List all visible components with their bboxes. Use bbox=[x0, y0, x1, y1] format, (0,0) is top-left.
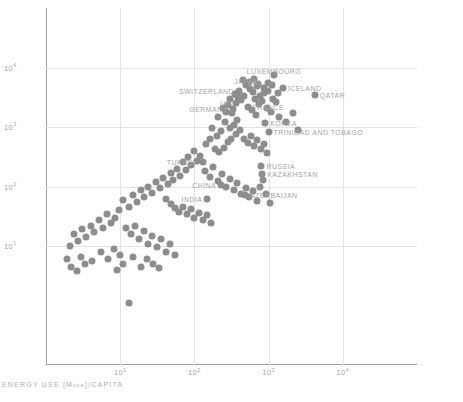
data-point bbox=[79, 226, 86, 233]
data-point bbox=[223, 183, 230, 190]
data-point bbox=[89, 258, 96, 265]
data-point bbox=[137, 263, 144, 270]
data-point bbox=[115, 207, 122, 214]
data-point bbox=[155, 265, 162, 272]
data-point bbox=[113, 266, 120, 273]
data-point bbox=[87, 222, 94, 229]
data-point bbox=[107, 220, 114, 227]
data-point bbox=[125, 203, 132, 210]
data-point bbox=[149, 232, 156, 239]
data-point bbox=[234, 179, 241, 186]
data-point bbox=[289, 110, 296, 117]
data-point bbox=[242, 184, 249, 191]
country-label: QATAR bbox=[320, 92, 345, 99]
data-point bbox=[104, 256, 111, 263]
data-point bbox=[311, 92, 318, 99]
data-point bbox=[171, 252, 178, 259]
data-point bbox=[91, 229, 98, 236]
gridline-horizontal bbox=[46, 246, 417, 247]
x-axis-line bbox=[46, 364, 417, 365]
x-tick-label: 101 bbox=[114, 368, 127, 377]
data-point bbox=[210, 163, 217, 170]
data-point bbox=[258, 163, 265, 170]
data-point bbox=[206, 173, 213, 180]
gridline-horizontal bbox=[46, 68, 417, 69]
y-tick-label: 101 bbox=[4, 242, 17, 251]
country-label: KAZAKHSTAN bbox=[267, 171, 318, 178]
data-point bbox=[103, 210, 110, 217]
data-point bbox=[145, 183, 152, 190]
data-point bbox=[190, 147, 197, 154]
data-point bbox=[259, 176, 266, 183]
country-label: KOREA bbox=[270, 120, 297, 127]
data-point bbox=[71, 230, 78, 237]
plot-area: 104103102101 101102103104 LUXEMBOURGICEL… bbox=[46, 8, 417, 365]
data-point bbox=[160, 174, 167, 181]
data-point bbox=[265, 129, 272, 136]
data-point bbox=[97, 248, 104, 255]
data-point bbox=[63, 256, 70, 263]
country-label: ICELAND bbox=[288, 84, 322, 91]
x-tick-label: 103 bbox=[262, 368, 275, 377]
country-label: SWITZERLAND bbox=[179, 87, 234, 94]
data-point bbox=[213, 133, 220, 140]
data-point bbox=[203, 140, 210, 147]
data-point bbox=[253, 111, 260, 118]
data-point bbox=[188, 205, 195, 212]
data-point bbox=[95, 217, 102, 224]
data-point bbox=[145, 240, 152, 247]
data-point bbox=[141, 227, 148, 234]
data-point bbox=[117, 252, 124, 259]
data-point bbox=[209, 125, 216, 132]
data-point bbox=[82, 260, 89, 267]
data-point bbox=[226, 124, 233, 131]
y-tick-label: 103 bbox=[4, 123, 17, 132]
data-point bbox=[167, 169, 174, 176]
x-axis-title: ENERGY USE [Mtoe]/CAPITA bbox=[2, 381, 123, 388]
country-label: LUXEMBOURG bbox=[247, 68, 301, 75]
data-point bbox=[182, 166, 189, 173]
data-point bbox=[128, 230, 135, 237]
data-point bbox=[66, 243, 73, 250]
data-point bbox=[162, 248, 169, 255]
data-point bbox=[153, 244, 160, 251]
data-point bbox=[130, 254, 137, 261]
data-point bbox=[156, 184, 163, 191]
data-point bbox=[262, 120, 269, 127]
data-point bbox=[218, 171, 225, 178]
scatter-chart: 104103102101 101102103104 LUXEMBOURGICEL… bbox=[0, 0, 463, 402]
x-tick-label: 104 bbox=[337, 368, 350, 377]
country-label: FRANCE bbox=[253, 103, 284, 110]
country-label: JAPAN bbox=[234, 78, 258, 85]
y-tick-label: 104 bbox=[4, 63, 17, 72]
data-point bbox=[275, 89, 282, 96]
country-label: TRINIDAD AND TOBAGO bbox=[274, 129, 364, 136]
data-point bbox=[158, 236, 165, 243]
data-point bbox=[134, 198, 141, 205]
data-point bbox=[215, 113, 222, 120]
data-point bbox=[270, 95, 277, 102]
data-point bbox=[204, 212, 211, 219]
x-tick-label: 102 bbox=[188, 368, 201, 377]
data-point bbox=[75, 238, 82, 245]
data-point bbox=[164, 181, 171, 188]
data-point bbox=[125, 300, 132, 307]
data-point bbox=[226, 175, 233, 182]
data-point bbox=[141, 194, 148, 201]
data-point bbox=[204, 195, 211, 202]
data-point bbox=[173, 165, 180, 172]
country-label: AZERBAIJAN bbox=[250, 191, 298, 198]
data-point bbox=[149, 189, 156, 196]
data-point bbox=[132, 222, 139, 229]
data-point bbox=[73, 268, 80, 275]
country-label: TURKEY bbox=[167, 158, 198, 165]
data-point bbox=[83, 234, 90, 241]
data-point bbox=[152, 178, 159, 185]
data-point bbox=[195, 209, 202, 216]
data-point bbox=[130, 191, 137, 198]
data-point bbox=[268, 81, 275, 88]
country-label: RUSSIA bbox=[266, 163, 295, 170]
country-label: GERMANY bbox=[189, 106, 228, 113]
data-point bbox=[208, 220, 215, 227]
y-tick-label: 102 bbox=[4, 182, 17, 191]
